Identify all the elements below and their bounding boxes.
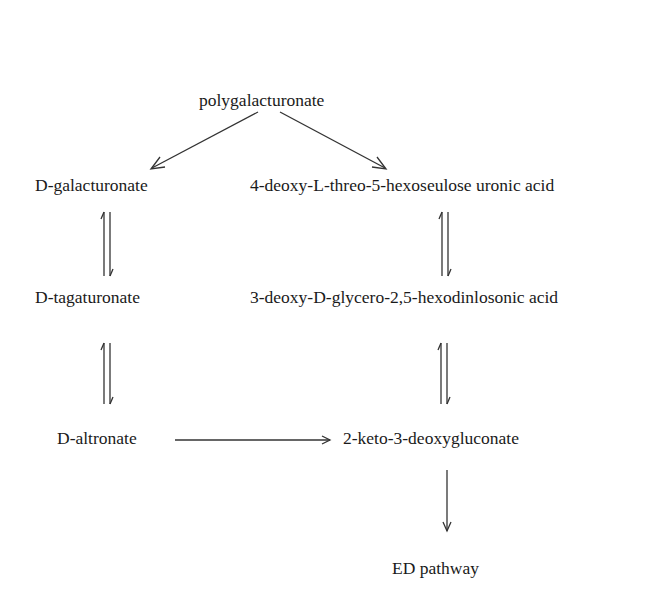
arrow-altronate-to-kdg <box>175 436 330 444</box>
equilibrium-arrow-left-1 <box>101 212 113 276</box>
node-label: polygalacturonate <box>199 90 324 110</box>
stereo-prefix: D <box>35 287 48 307</box>
node-label: ED pathway <box>392 558 479 578</box>
arrow-poly-to-galacturonate <box>151 112 258 169</box>
stereo-prefix: D <box>57 428 70 448</box>
equilibrium-arrow-right-2 <box>438 343 450 404</box>
node-label-pre: 3-deoxy- <box>250 287 313 307</box>
node-label: -glycero-2,5-hexodinlosonic acid <box>326 287 558 307</box>
arrow-poly-to-hexoseulose <box>280 112 386 169</box>
node-label-pre: 4-deoxy- <box>250 175 313 195</box>
node-label: -galacturonate <box>48 175 148 195</box>
equilibrium-arrow-left-2 <box>101 343 113 404</box>
node-2-keto-3-deoxygluconate: 2-keto-3-deoxygluconate <box>343 430 519 448</box>
stereo-prefix: D <box>313 287 326 307</box>
node-ed-pathway: ED pathway <box>392 560 479 578</box>
node-label: -altronate <box>70 428 137 448</box>
node-label: -threo-5-hexoseulose uronic acid <box>324 175 554 195</box>
stereo-prefix: L <box>313 175 324 195</box>
node-d-tagaturonate: D-tagaturonate <box>35 289 140 307</box>
node-d-altronate: D-altronate <box>57 430 137 448</box>
node-hexoseulose-uronic-acid: 4-deoxy-L-threo-5-hexoseulose uronic aci… <box>250 177 554 195</box>
stereo-prefix: D <box>35 175 48 195</box>
node-label: 2-keto-3-deoxygluconate <box>343 428 519 448</box>
arrow-kdg-to-ed <box>443 470 451 531</box>
node-d-galacturonate: D-galacturonate <box>35 177 148 195</box>
node-polygalacturonate: polygalacturonate <box>199 92 324 110</box>
node-label: -tagaturonate <box>48 287 140 307</box>
node-hexodinlosonic-acid: 3-deoxy-D-glycero-2,5-hexodinlosonic aci… <box>250 289 558 307</box>
equilibrium-arrow-right-1 <box>439 212 451 276</box>
